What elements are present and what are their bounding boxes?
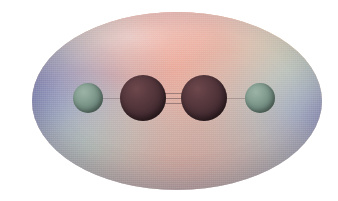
molecule-figure (0, 0, 338, 201)
atom-hydrogen-h1 (73, 83, 103, 113)
bond-c1-c2-line-bottom (164, 103, 183, 104)
atom-carbon-c1 (120, 75, 166, 121)
bond-c1-c2-line-top (164, 93, 183, 94)
atom-hydrogen-h2 (245, 83, 275, 113)
bond-c2-h2 (225, 98, 247, 99)
bond-h1-c1 (101, 98, 122, 99)
atom-carbon-c2 (181, 75, 227, 121)
